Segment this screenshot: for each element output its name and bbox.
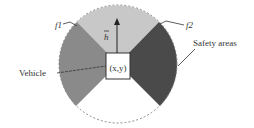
vehicle-label: Vehicle	[19, 68, 46, 78]
safety-areas-leader	[178, 49, 195, 66]
f2-label: f2	[186, 20, 194, 30]
safety-areas-label: Safety areas	[193, 38, 237, 48]
safety-area-diagram: (x,y) h f1 f2 Safety areas Vehicle	[0, 0, 254, 128]
f2-leader	[160, 21, 184, 25]
heading-label: h	[104, 32, 109, 42]
position-label: (x,y)	[109, 63, 126, 73]
f1-label: f1	[55, 20, 62, 30]
